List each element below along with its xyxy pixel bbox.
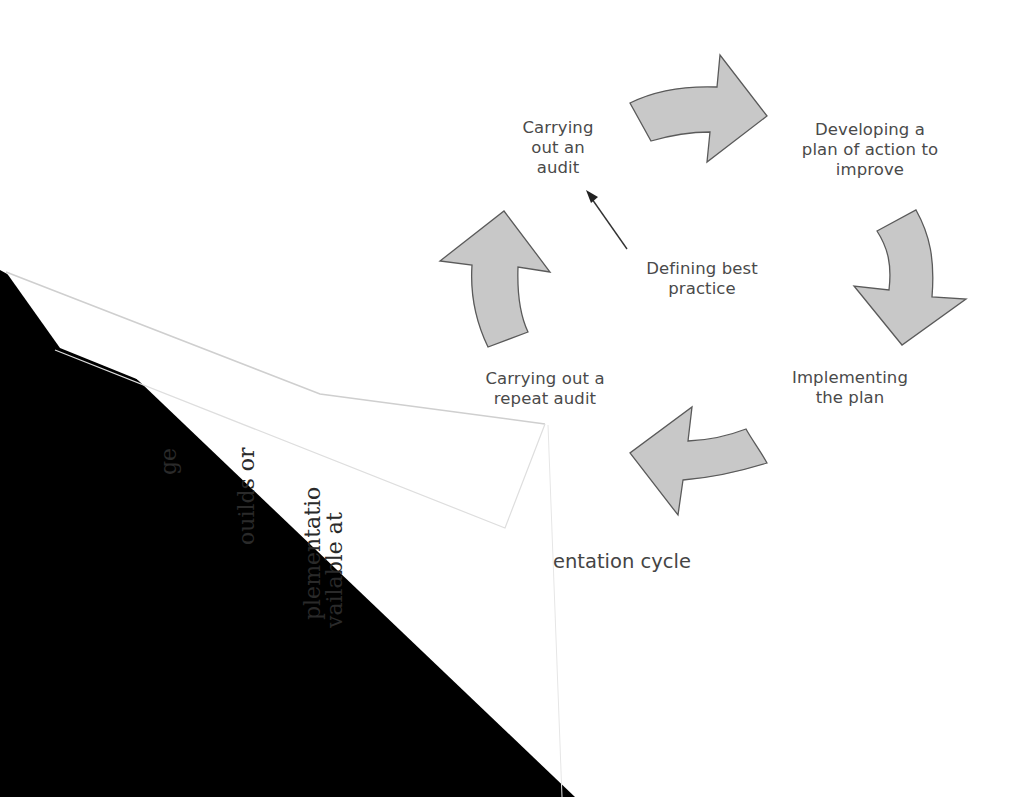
node-carrying-out-audit: Carrying out an audit — [498, 118, 618, 178]
pointer-line — [592, 199, 627, 249]
arrow-left-icon — [630, 407, 767, 515]
node-implementing-plan: Implementing the plan — [775, 368, 925, 408]
node-defining-best-practice: Defining best practice — [627, 259, 777, 299]
book-page-photo: ge ouilds or plementatio vailable at Car… — [0, 0, 1017, 797]
node-developing-plan: Developing a plan of action to improve — [780, 120, 960, 180]
folded-text-2: ouilds or — [234, 447, 259, 545]
arrow-right-icon — [630, 55, 767, 162]
node-repeat-audit: Carrying out a repeat audit — [480, 369, 610, 409]
pointer-arrowhead-icon — [586, 190, 598, 203]
figure-caption: entation cycle — [553, 551, 691, 573]
folded-text-1: ge — [156, 448, 181, 475]
arrow-down-icon — [854, 210, 966, 345]
page-edge-line — [548, 425, 562, 797]
arrow-up-icon — [440, 211, 550, 347]
folded-text-4: vailable at — [322, 512, 347, 628]
